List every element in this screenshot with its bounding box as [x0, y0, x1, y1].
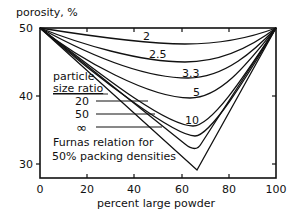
curve-ratio-2: [40, 28, 276, 44]
curve-label-2: 2: [143, 30, 150, 43]
x-tick-label-0: 0: [37, 183, 44, 196]
x-tick-label-60: 60: [175, 183, 189, 196]
x-tick-label-40: 40: [127, 183, 141, 196]
x-tick-label-20: 20: [80, 183, 94, 196]
x-axis-label: percent large powder: [97, 197, 215, 210]
legend-title-line2: size ratio: [53, 82, 103, 95]
furnas-annotation-line1: Furnas relation for: [53, 136, 154, 149]
curve-label-10: 10: [185, 114, 199, 127]
curve-label-3-3: 3.3: [182, 67, 200, 80]
curve-label-20: 20: [75, 95, 89, 108]
y-tick-label-40: 40: [19, 90, 33, 103]
curve-label-5: 5: [193, 86, 200, 99]
furnas-annotation-line2: 50% packing densities: [52, 150, 176, 163]
x-tick-label-80: 80: [222, 183, 236, 196]
y-tick-label-50: 50: [19, 22, 33, 35]
curve-label-inf: ∞: [76, 120, 87, 135]
chart: 2 2.5 3.3 5 10 20 50 ∞ particle size rat…: [0, 0, 295, 221]
curve-label-2-5: 2.5: [149, 48, 167, 61]
y-tick-label-30: 30: [19, 158, 33, 171]
x-tick-label-100: 100: [266, 183, 287, 196]
y-axis-label: porosity, %: [16, 6, 78, 19]
